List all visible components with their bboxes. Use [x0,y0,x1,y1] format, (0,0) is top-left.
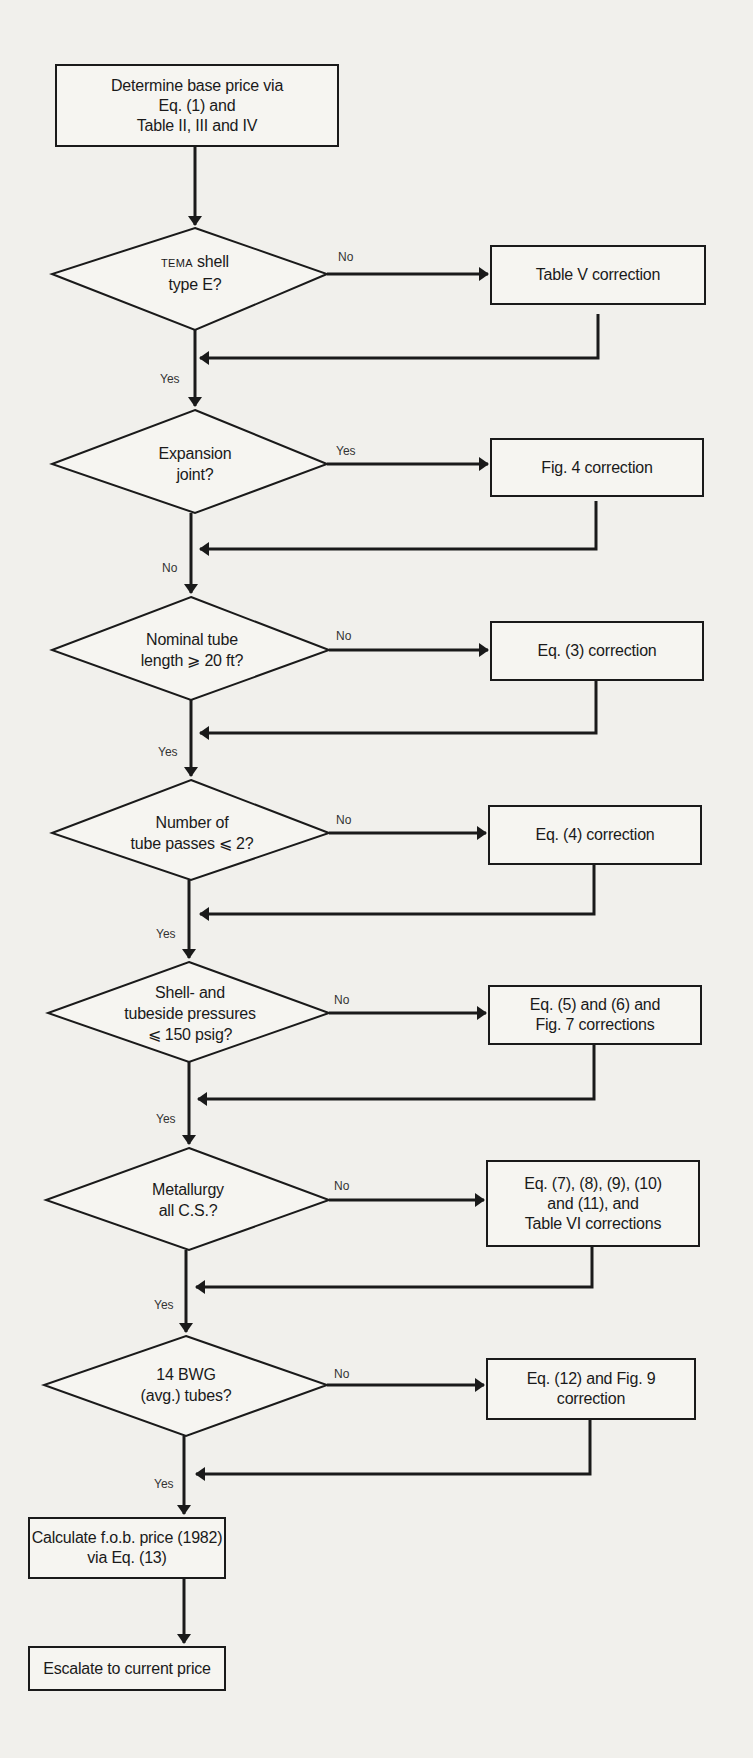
start-box: Determine base price via Eq. (1) and Tab… [55,64,339,147]
correction-text-5: Eq. (5) and (6) and Fig. 7 corrections [530,995,661,1035]
branch-label-7: No [334,1367,349,1381]
correction-box-6: Eq. (7), (8), (9), (10) and (11), and Ta… [486,1160,700,1247]
return-line-5 [198,1045,594,1099]
calculate-box-text: Calculate f.o.b. price (1982) via Eq. (1… [32,1528,223,1568]
decision-text-6: Metallurgy all C.S.? [88,1178,288,1222]
continue-label-1: Yes [160,372,180,386]
branch-label-4: No [336,813,351,827]
calculate-box: Calculate f.o.b. price (1982) via Eq. (1… [28,1517,226,1579]
start-box-text: Determine base price via Eq. (1) and Tab… [111,76,283,136]
correction-text-2: Fig. 4 correction [541,458,652,478]
correction-text-3: Eq. (3) correction [537,641,656,661]
return-line-2 [200,501,596,549]
correction-text-4: Eq. (4) correction [535,825,654,845]
decision-text-7: 14 BWG (avg.) tubes? [86,1363,286,1407]
branch-label-6: No [334,1179,349,1193]
branch-label-1: No [338,250,353,264]
tema-label: TEMA [161,257,193,269]
continue-label-4: Yes [156,927,176,941]
correction-box-4: Eq. (4) correction [488,805,702,865]
return-line-3 [200,681,596,733]
decision-text-3: Nominal tube length ⩾ 20 ft? [92,628,292,672]
continue-label-3: Yes [158,745,178,759]
continue-label-6: Yes [154,1298,174,1312]
correction-box-7: Eq. (12) and Fig. 9 correction [486,1358,696,1420]
branch-label-2: Yes [336,444,356,458]
decision-text-1: TEMA shell type E? [95,250,295,296]
correction-text-1: Table V correction [536,265,660,285]
continue-label-2: No [162,561,177,575]
branch-label-5: No [334,993,349,1007]
return-line-7 [196,1418,590,1474]
decision-text-4: Number of tube passes ⩽ 2? [92,811,292,855]
decision-text-5: Shell- and tubeside pressures ⩽ 150 psig… [84,980,296,1046]
continue-label-7: Yes [154,1477,174,1491]
return-line-1 [200,314,598,358]
end-box-text: Escalate to current price [43,1659,211,1679]
correction-box-3: Eq. (3) correction [490,621,704,681]
branch-label-3: No [336,629,351,643]
correction-text-7: Eq. (12) and Fig. 9 correction [527,1369,656,1409]
decision-text-2: Expansion joint? [95,442,295,486]
correction-text-6: Eq. (7), (8), (9), (10) and (11), and Ta… [524,1174,662,1234]
correction-box-1: Table V correction [490,245,706,305]
end-box: Escalate to current price [28,1646,226,1691]
continue-label-5: Yes [156,1112,176,1126]
return-line-6 [196,1246,592,1287]
correction-box-5: Eq. (5) and (6) and Fig. 7 corrections [488,985,702,1045]
return-line-4 [200,864,594,914]
correction-box-2: Fig. 4 correction [490,438,704,497]
